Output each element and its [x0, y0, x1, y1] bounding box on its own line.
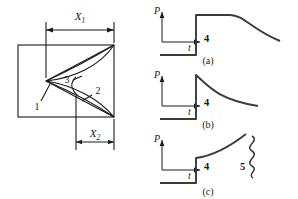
dimension-x2 — [76, 96, 114, 150]
x2-arrow-left — [76, 140, 82, 144]
callout-3-label: 3 — [65, 74, 70, 85]
plot-c: P t 4 5 (c) — [148, 130, 298, 199]
figure-root: X1 X2 1 2 3 P t 4 (a) — [0, 0, 298, 199]
callout-1-leader — [41, 84, 50, 101]
left-diagram: X1 X2 1 2 3 — [0, 0, 150, 199]
plot-a-x-arrowhead — [194, 40, 200, 45]
x1-label-subscript: 1 — [81, 16, 85, 25]
plot-b-x-label: t — [188, 106, 191, 117]
plot-a-x-label: t — [188, 42, 191, 53]
plot-b-y-label: P — [153, 69, 160, 80]
x2-label: X2 — [89, 127, 101, 142]
plot-c-caption: (c) — [202, 186, 213, 198]
plot-b-curve-label: 4 — [204, 97, 210, 108]
plot-c-y-label: P — [153, 133, 160, 144]
plot-c-y-arrowhead — [160, 140, 165, 146]
plot-c-curve-label: 4 — [204, 161, 210, 172]
plot-a-curve-label: 4 — [204, 33, 210, 44]
callout-2-label: 2 — [96, 85, 101, 96]
plot-a-signal-curve — [160, 15, 280, 55]
plot-b: P t 4 (b) — [148, 66, 298, 130]
plot-b-x-arrowhead — [194, 104, 200, 109]
x1-arrow-left — [46, 28, 53, 33]
plot-a-axes — [162, 12, 200, 42]
x1-arrow-right — [107, 28, 114, 33]
x2-label-subscript: 2 — [96, 133, 100, 142]
plot-a-y-arrowhead — [160, 12, 165, 18]
plot-b-axes — [162, 76, 200, 106]
x1-label: X1 — [74, 10, 85, 25]
plot-c-axes — [162, 140, 200, 170]
plot-c-x-label: t — [188, 170, 191, 181]
plot-c-wavy-break-symbol — [250, 136, 255, 178]
plot-c-x-arrowhead — [194, 168, 200, 173]
plot-b-y-arrowhead — [160, 76, 165, 82]
plot-c-extra-label: 5 — [240, 161, 245, 172]
plot-a-y-label: P — [153, 5, 160, 16]
plot-a: P t 4 (a) — [148, 2, 298, 66]
x2-arrow-right — [108, 140, 114, 144]
plot-c-signal-curve — [160, 134, 246, 183]
callout-1-label: 1 — [35, 101, 40, 112]
